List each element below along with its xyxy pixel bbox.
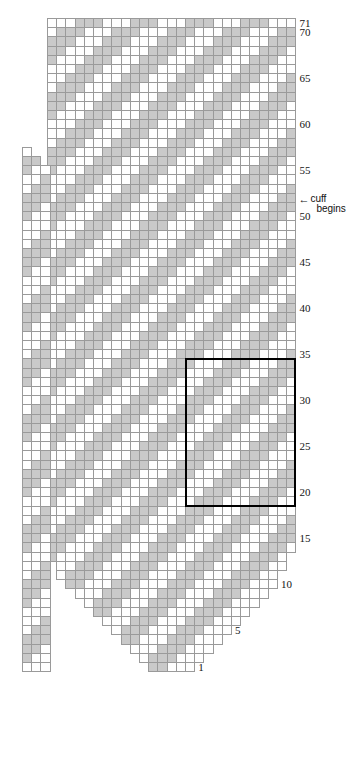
chart-cell — [259, 588, 269, 598]
gusset-cell — [40, 662, 50, 672]
row-number-label: 70 — [299, 27, 310, 38]
row-number-label: 35 — [299, 349, 310, 360]
cuff-begins-annotation: ←cuffbegins — [298, 194, 345, 215]
left-arrow-icon: ← — [298, 194, 309, 205]
row-number-label: 10 — [281, 579, 292, 590]
row-number-label: 65 — [299, 73, 310, 84]
colorwork-chart: 717065605550454035302520151051 ←cuffbegi… — [0, 0, 348, 767]
row-number-label: 15 — [299, 533, 310, 544]
row-number-label: 20 — [299, 487, 310, 498]
row-number-label: 25 — [299, 441, 310, 452]
chart-cell — [185, 662, 195, 672]
chart-cell — [286, 542, 296, 552]
row-number-label: 40 — [299, 303, 310, 314]
chart-cell — [277, 561, 287, 571]
chart-cell — [240, 607, 250, 617]
chart-cell — [222, 625, 232, 635]
chart-cell — [268, 579, 278, 589]
chart-cell — [249, 598, 259, 608]
chart-cell — [213, 634, 223, 644]
row-number-label: 1 — [198, 662, 204, 673]
row-number-label: 60 — [299, 119, 310, 130]
row-number-label: 30 — [299, 395, 310, 406]
chart-cell — [203, 644, 213, 654]
row-number-label: 5 — [235, 625, 241, 636]
row-number-label: 45 — [299, 257, 310, 268]
cuff-label-line2: begins — [310, 204, 345, 215]
row-number-label: 55 — [299, 165, 310, 176]
